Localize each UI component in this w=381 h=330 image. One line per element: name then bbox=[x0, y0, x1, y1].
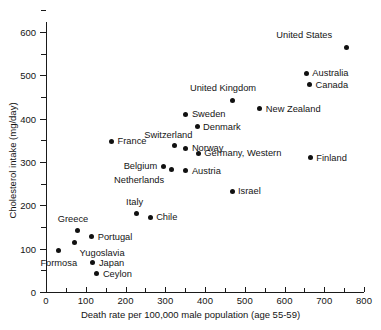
x-tick-mark bbox=[205, 287, 206, 292]
data-point-label: Belgium bbox=[0, 161, 157, 171]
data-point-marker bbox=[230, 98, 235, 103]
y-tick-label: 0 bbox=[0, 287, 36, 298]
x-tick-label: 700 bbox=[316, 295, 332, 306]
y-tick-label: 200 bbox=[0, 200, 36, 211]
y-tick-mark bbox=[40, 292, 46, 293]
data-point-label: Canada bbox=[316, 80, 349, 90]
data-point-marker bbox=[183, 146, 188, 151]
x-tick-label: 800 bbox=[356, 295, 372, 306]
y-minor-tick-mark bbox=[41, 10, 46, 11]
x-tick-label: 100 bbox=[78, 295, 94, 306]
data-point-label: Japan bbox=[99, 258, 124, 268]
x-minor-tick-mark bbox=[66, 288, 67, 292]
x-tick-mark bbox=[126, 287, 127, 292]
y-tick-mark bbox=[40, 205, 46, 206]
x-minor-tick-mark bbox=[106, 288, 107, 292]
y-minor-tick-mark bbox=[41, 97, 46, 98]
data-point-label: Denmark bbox=[203, 122, 241, 132]
data-point-marker bbox=[161, 164, 166, 169]
x-tick-mark bbox=[165, 287, 166, 292]
data-point-marker bbox=[308, 155, 313, 160]
data-point-label: United States bbox=[0, 30, 332, 40]
data-point-marker bbox=[89, 234, 94, 239]
x-tick-mark bbox=[46, 287, 47, 292]
x-tick-label: 300 bbox=[157, 295, 173, 306]
data-point-label: Ceylon bbox=[103, 269, 132, 279]
y-minor-tick-mark bbox=[41, 140, 46, 141]
data-point-marker bbox=[183, 112, 188, 117]
x-tick-label: 0 bbox=[43, 295, 48, 306]
x-minor-tick-mark bbox=[225, 288, 226, 292]
x-tick-label: 400 bbox=[197, 295, 213, 306]
data-point-marker bbox=[94, 271, 99, 276]
x-tick-mark bbox=[245, 287, 246, 292]
data-point-marker bbox=[344, 45, 349, 50]
y-tick-mark bbox=[40, 249, 46, 250]
y-tick-mark bbox=[40, 119, 46, 120]
data-point-marker bbox=[304, 71, 309, 76]
data-point-marker bbox=[183, 168, 188, 173]
y-minor-tick-mark bbox=[41, 54, 46, 55]
data-point-label: New Zealand bbox=[266, 104, 321, 114]
data-point-marker bbox=[134, 211, 139, 216]
x-axis-line bbox=[46, 292, 364, 293]
data-point-label: Austria bbox=[192, 166, 221, 176]
data-point-marker bbox=[90, 260, 95, 265]
x-tick-mark bbox=[364, 287, 365, 292]
data-point-label: Chile bbox=[156, 212, 177, 222]
y-tick-label: 100 bbox=[0, 243, 36, 254]
y-tick-label: 500 bbox=[0, 70, 36, 81]
scatter-plot-figure: 0100200300400500600700800010020030040050… bbox=[0, 0, 381, 330]
data-point-marker bbox=[196, 151, 201, 156]
data-point-label: Italy bbox=[126, 197, 143, 207]
x-tick-mark bbox=[86, 287, 87, 292]
data-point-label: Australia bbox=[312, 68, 348, 78]
data-point-label: Finland bbox=[316, 153, 347, 163]
data-point-marker bbox=[169, 167, 174, 172]
data-point-label: Switzerland bbox=[144, 130, 192, 140]
data-point-marker bbox=[195, 124, 200, 129]
x-tick-label: 200 bbox=[118, 295, 134, 306]
data-point-marker bbox=[109, 139, 114, 144]
x-axis-title: Death rate per 100,000 male population (… bbox=[0, 309, 381, 320]
data-point-marker bbox=[230, 189, 235, 194]
y-axis-line bbox=[46, 22, 47, 293]
data-point-marker bbox=[307, 82, 312, 87]
x-minor-tick-mark bbox=[304, 288, 305, 292]
x-tick-mark bbox=[285, 287, 286, 292]
data-point-marker bbox=[56, 248, 61, 253]
data-point-label: Greece bbox=[58, 214, 89, 224]
x-minor-tick-mark bbox=[145, 288, 146, 292]
data-point-label: Sweden bbox=[192, 109, 226, 119]
x-tick-label: 600 bbox=[277, 295, 293, 306]
x-tick-mark bbox=[324, 287, 325, 292]
y-tick-mark bbox=[40, 75, 46, 76]
x-tick-label: 500 bbox=[237, 295, 253, 306]
x-minor-tick-mark bbox=[185, 288, 186, 292]
data-point-label: Portugal bbox=[98, 232, 133, 242]
data-point-label: France bbox=[118, 136, 147, 146]
data-point-label: Germany, Western bbox=[204, 148, 281, 158]
data-point-label: Israel bbox=[238, 186, 261, 196]
y-tick-label: 400 bbox=[0, 113, 36, 124]
data-point-label: Netherlands bbox=[0, 175, 164, 185]
x-minor-tick-mark bbox=[265, 288, 266, 292]
data-point-marker bbox=[257, 106, 262, 111]
data-point-label: Formosa bbox=[40, 258, 77, 268]
y-axis-title: Cholesterol intake (mg/day) bbox=[7, 96, 18, 226]
data-point-label: United Kingdom bbox=[190, 83, 256, 93]
data-point-marker bbox=[172, 143, 177, 148]
data-point-marker bbox=[148, 215, 153, 220]
y-minor-tick-mark bbox=[41, 227, 46, 228]
data-point-marker bbox=[72, 240, 77, 245]
y-minor-tick-mark bbox=[41, 270, 46, 271]
data-point-marker bbox=[75, 228, 80, 233]
x-minor-tick-mark bbox=[344, 288, 345, 292]
